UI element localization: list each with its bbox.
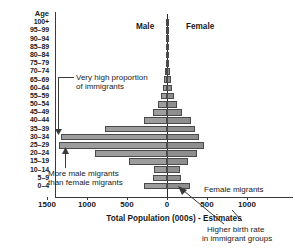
pyramid-row (0, 125, 295, 133)
pyramid-row (0, 59, 295, 67)
bar-male (153, 109, 167, 116)
bar-male (61, 134, 167, 141)
age-axis-title: Age (0, 10, 52, 18)
annotation-immigrants-leader-h (58, 77, 74, 78)
x-axis-line (55, 197, 293, 198)
bar-female (167, 44, 169, 51)
bar-male (154, 166, 167, 173)
x-tick-label: 1000 (67, 200, 107, 209)
bar-female (167, 134, 199, 141)
plot-area: Age 100+ 95–99 90–94 85–89 80–84 75–79 7… (0, 0, 295, 251)
pyramid-row (0, 109, 295, 117)
bar-female (167, 93, 174, 100)
bar-female (167, 27, 169, 34)
x-axis-title: Total Population (000s) - Estimates (55, 214, 293, 223)
annotation-birthrate-leader-icon (178, 186, 226, 226)
bar-female (167, 85, 172, 92)
pyramid-row (0, 133, 295, 141)
bar-female (167, 166, 180, 173)
bar-female (167, 109, 182, 116)
annotation-male-migrants-line2: than female migrants (48, 178, 123, 188)
annotation-immigrants-line2: of immigrants (76, 82, 124, 92)
annotation-birthrate-line2: in immigrant groups (202, 234, 272, 244)
annotation-estimates-leader-icon (232, 210, 246, 222)
pyramid-row (0, 166, 295, 174)
pyramid-row (0, 117, 295, 125)
annotation-male-migrants-arrow-icon (61, 147, 70, 156)
bar-female (167, 76, 171, 83)
pyramid-row (0, 100, 295, 108)
bar-female (167, 142, 204, 149)
bar-female (167, 52, 169, 59)
bar-female (167, 19, 169, 26)
bar-female (167, 60, 169, 67)
pyramid-row (0, 84, 295, 92)
x-tick-label: 500 (107, 200, 147, 209)
annotation-immigrants-arrow-icon (54, 126, 63, 135)
x-tick-label: 1500 (27, 200, 67, 209)
bar-female (167, 150, 197, 157)
bar-female (167, 35, 169, 42)
population-pyramid-chart: Age 100+ 95–99 90–94 85–89 80–84 75–79 7… (0, 0, 295, 251)
bar-female (167, 101, 177, 108)
x-tick-label: 1000 (227, 200, 267, 209)
bar-male (59, 142, 167, 149)
female-header: Female (186, 22, 214, 31)
bar-male (153, 175, 167, 182)
pyramid-row (0, 158, 295, 166)
pyramid-row (0, 141, 295, 149)
pyramid-row (0, 43, 295, 51)
annotation-male-migrants-leader (65, 154, 66, 168)
pyramid-row (0, 150, 295, 158)
bar-group (0, 19, 295, 191)
pyramid-row (0, 92, 295, 100)
bar-male (144, 117, 167, 124)
bar-male (144, 183, 167, 190)
male-header: Male (136, 22, 154, 31)
bar-female (167, 117, 191, 124)
bar-female (167, 68, 170, 75)
bar-female (167, 126, 195, 133)
bar-male (105, 126, 167, 133)
pyramid-row (0, 174, 295, 182)
bar-female (167, 158, 188, 165)
pyramid-row (0, 51, 295, 59)
bar-male (129, 158, 167, 165)
bar-male (158, 101, 167, 108)
bar-female (167, 175, 181, 182)
pyramid-row (0, 35, 295, 43)
annotation-immigrants-leader-v (58, 77, 59, 131)
bar-male (95, 150, 167, 157)
